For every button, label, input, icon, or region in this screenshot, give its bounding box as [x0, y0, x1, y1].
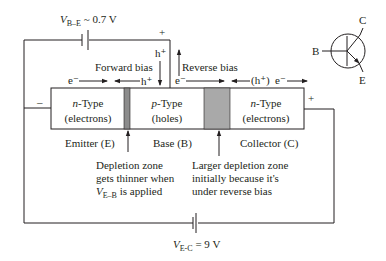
symbol-collector-label: C: [359, 14, 366, 26]
svg-text:(electrons): (electrons): [242, 112, 289, 125]
emitter-depletion-note: Depletion zone gets thinner when VE–B is…: [96, 159, 175, 200]
collector-hole-label: (h⁺): [251, 74, 270, 87]
emitter-minus-sign: –: [36, 96, 43, 108]
svg-text:n-Type: n-Type: [251, 97, 282, 109]
base-plus-sign: +: [159, 26, 165, 38]
svg-text:p-Type: p-Type: [151, 97, 183, 109]
vec-label: VE-C = 9 V: [173, 238, 220, 253]
collector-electron-left-label: e⁻: [175, 74, 186, 86]
npn-transistor-diagram: VB–E ~ 0.7 V + – VE-C = 9 V + n-Type (el…: [0, 0, 386, 261]
base-label: Base (B): [153, 137, 192, 150]
base-collector-depletion-zone: [204, 88, 230, 129]
svg-text:(electrons): (electrons): [64, 112, 111, 125]
emitter-electron-label: e⁻: [68, 74, 79, 86]
collector-label: Collector (C): [240, 137, 299, 150]
svg-text:n-Type: n-Type: [73, 97, 104, 109]
base-hole-label: h⁺: [155, 47, 167, 59]
emitter-label: Emitter (E): [65, 137, 115, 150]
reverse-bias-label: Reverse bias: [182, 61, 238, 73]
svg-text:VE–B is applied: VE–B is applied: [96, 185, 163, 200]
symbol-base-label: B: [312, 45, 319, 57]
vbe-label: VB–E ~ 0.7 V: [60, 13, 117, 28]
svg-text:Larger depletion zone: Larger depletion zone: [192, 159, 288, 171]
svg-text:initially because it's: initially because it's: [192, 172, 279, 184]
svg-text:gets thinner when: gets thinner when: [96, 172, 175, 184]
emitter-hole-label: h⁺: [141, 75, 153, 87]
symbol-emitter-label: E: [359, 74, 366, 86]
forward-bias-label: Forward bias: [95, 61, 153, 73]
svg-text:Depletion zone: Depletion zone: [96, 159, 163, 171]
svg-text:(holes): (holes): [152, 112, 183, 125]
svg-text:under reverse bias: under reverse bias: [192, 185, 272, 197]
npn-transistor-symbol: [322, 28, 365, 72]
collector-electron-right-label: e⁻: [275, 74, 286, 86]
collector-plus-sign: +: [308, 92, 314, 104]
collector-depletion-note: Larger depletion zone initially because …: [192, 159, 288, 197]
emitter-base-depletion-zone: [124, 88, 130, 129]
